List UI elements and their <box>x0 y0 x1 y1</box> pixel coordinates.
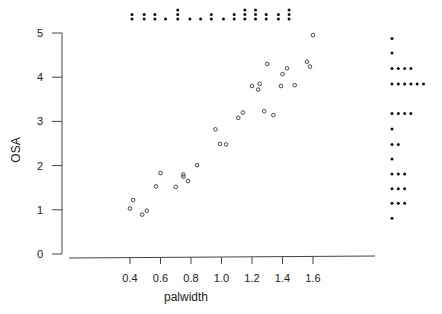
data-point <box>195 163 199 167</box>
dot <box>397 143 400 146</box>
dot <box>391 82 394 85</box>
dot <box>176 18 179 21</box>
dot <box>391 158 394 161</box>
data-point <box>272 113 276 117</box>
dot <box>391 37 394 40</box>
dot <box>143 13 146 16</box>
dot <box>153 13 156 16</box>
data-point <box>224 143 228 147</box>
dot <box>391 143 394 146</box>
dot <box>254 18 257 21</box>
data-point <box>186 179 190 183</box>
data-point <box>293 83 297 87</box>
dot <box>164 18 167 21</box>
dot <box>288 9 291 12</box>
dot <box>210 13 213 16</box>
dot <box>277 13 280 16</box>
dot <box>233 18 236 21</box>
data-point <box>258 82 262 86</box>
dot <box>288 13 291 16</box>
data-point <box>174 185 178 189</box>
dot <box>403 82 406 85</box>
y-axis-title: OSA <box>9 137 23 162</box>
scatter-chart: 012345 0.40.60.81.01.21.41.6 palwidth OS… <box>0 0 442 314</box>
x-tick-label: 1.0 <box>214 272 229 284</box>
dot <box>397 173 400 176</box>
data-point <box>214 128 218 132</box>
dot <box>233 13 236 16</box>
data-point <box>128 207 132 211</box>
y-tick-label: 5 <box>37 27 43 39</box>
dot <box>391 112 394 115</box>
right-marginal-dotplot <box>391 37 426 220</box>
x-tick-label: 1.4 <box>275 272 290 284</box>
dot <box>391 187 394 190</box>
dot <box>131 13 134 16</box>
dot <box>391 128 394 131</box>
data-point <box>140 213 144 217</box>
data-point <box>159 171 163 175</box>
data-point <box>250 84 254 88</box>
dot <box>403 187 406 190</box>
y-tick-label: 3 <box>37 115 43 127</box>
dot <box>243 18 246 21</box>
data-point <box>218 142 222 146</box>
dot <box>243 9 246 12</box>
dot <box>254 13 257 16</box>
dot <box>391 52 394 55</box>
data-point <box>279 84 283 88</box>
data-point <box>265 62 269 66</box>
dot <box>176 13 179 16</box>
data-point <box>285 67 289 71</box>
dot <box>397 67 400 70</box>
y-tick-label: 0 <box>37 248 43 260</box>
dot <box>409 67 412 70</box>
dot <box>391 217 394 220</box>
scatter-points <box>128 33 315 216</box>
data-point <box>131 198 135 202</box>
dot <box>391 202 394 205</box>
dot <box>265 13 268 16</box>
dot <box>403 173 406 176</box>
dot <box>210 18 213 21</box>
dot <box>277 18 280 21</box>
x-tick-label: 0.4 <box>122 272 137 284</box>
dot <box>397 82 400 85</box>
data-point <box>154 185 158 189</box>
top-marginal-dotplot <box>131 9 291 21</box>
data-point <box>236 116 240 120</box>
x-tick-label: 1.2 <box>244 272 259 284</box>
dot <box>153 18 156 21</box>
y-axis: 012345 <box>37 27 62 260</box>
dot <box>391 173 394 176</box>
dot <box>403 67 406 70</box>
data-point <box>262 109 266 113</box>
dot <box>199 18 202 21</box>
dot <box>188 18 191 21</box>
dot <box>254 9 257 12</box>
y-tick-label: 2 <box>37 160 43 172</box>
dot <box>397 187 400 190</box>
x-tick-label: 1.6 <box>305 272 320 284</box>
dot <box>397 202 400 205</box>
dot <box>288 18 291 21</box>
dot <box>409 82 412 85</box>
dot <box>131 18 134 21</box>
dot <box>403 202 406 205</box>
data-point <box>145 209 149 213</box>
data-point <box>256 88 260 92</box>
dot <box>403 112 406 115</box>
data-point <box>241 111 245 115</box>
data-point <box>281 72 285 76</box>
dot <box>176 9 179 12</box>
x-tick-label: 0.6 <box>153 272 168 284</box>
dot <box>265 18 268 21</box>
data-point <box>308 65 312 69</box>
dot <box>422 82 425 85</box>
dot <box>397 112 400 115</box>
x-axis-title: palwidth <box>164 290 208 304</box>
dot <box>143 18 146 21</box>
x-tick-label: 0.8 <box>183 272 198 284</box>
data-point <box>311 33 315 37</box>
y-tick-label: 4 <box>37 71 43 83</box>
